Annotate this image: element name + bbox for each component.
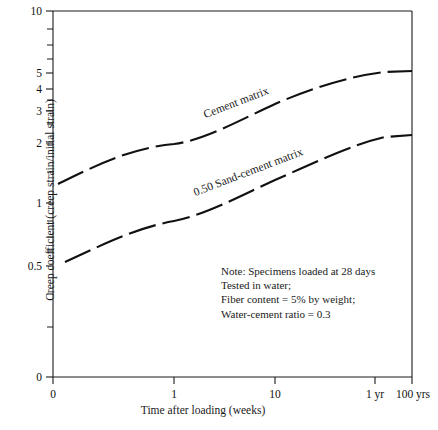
y-tick-label-0point5: 0.5	[8, 260, 42, 272]
x-axis-title: Time after loading (weeks)	[53, 404, 353, 416]
note-line-3: Fiber content = 5% by weight;	[221, 292, 375, 306]
note-line-2: Tested in water;	[221, 278, 375, 292]
y-tick-label-3: 3	[14, 105, 42, 117]
x-tick-label-100yrs: 100 yrs	[396, 388, 430, 400]
plot-frame	[53, 11, 412, 377]
y-tick-label-5: 5	[14, 67, 42, 79]
x-tick-label-1yr: 1 yr	[366, 388, 384, 400]
y-tick-label-4: 4	[14, 83, 42, 95]
x-tick-label-0: 0	[50, 388, 56, 400]
y-axis-title: Creep coefficient (creep strain/initial …	[44, 50, 56, 350]
plot-canvas	[0, 0, 438, 430]
creep-coefficient-chart: 10 5 4 3 2 1 0.5 0 0 1 10 1 yr 100 yrs C…	[0, 0, 438, 430]
x-tick-label-10: 10	[269, 388, 281, 400]
curve-sand-cement-matrix	[65, 135, 412, 262]
note-line-4: Water-cement ratio = 0.3	[221, 307, 375, 321]
note-line-1: Note: Specimens loaded at 28 days	[221, 264, 375, 278]
curve-cement-matrix	[58, 71, 412, 184]
y-tick-label-2: 2	[14, 137, 42, 149]
x-ticks	[53, 377, 412, 384]
y-tick-label-0: 0	[14, 371, 42, 383]
y-tick-label-10: 10	[14, 5, 42, 17]
x-tick-label-1: 1	[171, 388, 177, 400]
y-tick-label-1: 1	[14, 197, 42, 209]
note-block: Note: Specimens loaded at 28 days Tested…	[221, 264, 375, 321]
